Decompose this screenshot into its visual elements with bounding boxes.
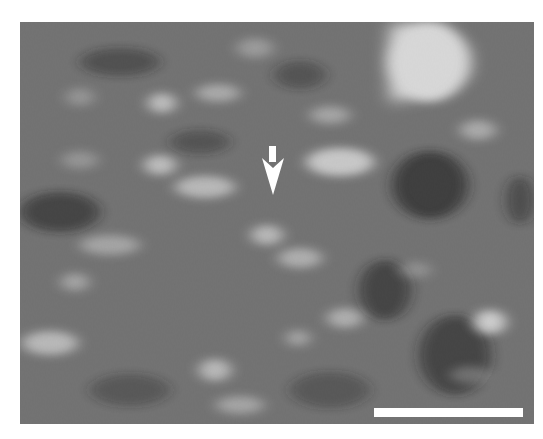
micrograph-image <box>0 0 543 439</box>
micrograph-figure <box>0 0 543 439</box>
micrograph-content <box>20 22 534 424</box>
scale-bar <box>374 408 523 417</box>
scan-noise-overlay <box>20 22 534 424</box>
